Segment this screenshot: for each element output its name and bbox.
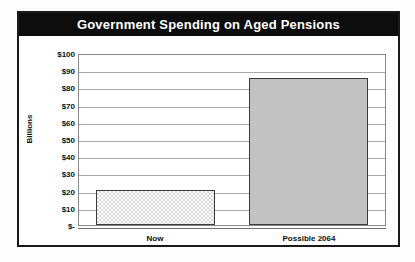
y-axis-tick-label: $70	[62, 101, 75, 110]
x-axis-label-possible-2064: Possible 2064	[232, 229, 386, 249]
chart-body: Billions $-$10$20$30$40$50$60$70$80$90$1…	[19, 36, 398, 245]
chart-title-banner: Government Spending on Aged Pensions	[19, 13, 398, 36]
y-axis-tick-label: $30	[62, 170, 75, 179]
y-axis-tick-label: $40	[62, 153, 75, 162]
y-axis-tick-labels: $-$10$20$30$40$50$60$70$80$90$100	[33, 54, 77, 226]
y-axis-tick-label: $20	[62, 187, 75, 196]
chart-frame: Government Spending on Aged Pensions Bil…	[17, 11, 400, 247]
y-axis-tick-label: $60	[62, 118, 75, 127]
y-axis-tick-label: $10	[62, 204, 75, 213]
y-axis-tick-label: $50	[62, 136, 75, 145]
bar-slot	[232, 55, 385, 225]
y-axis-tick-label: $80	[62, 84, 75, 93]
plot-area	[78, 54, 386, 226]
bar-series	[79, 55, 385, 225]
y-axis-tick-label: $90	[62, 67, 75, 76]
x-axis-label-now: Now	[78, 229, 232, 249]
y-axis-tick-label: $100	[57, 50, 75, 59]
bar-slot	[79, 55, 232, 225]
x-axis-category-labels: NowPossible 2064	[78, 228, 386, 249]
y-axis-tick-label: $-	[68, 222, 75, 231]
bar-now[interactable]	[96, 190, 215, 225]
page-background: Government Spending on Aged Pensions Bil…	[0, 0, 415, 262]
chart-title: Government Spending on Aged Pensions	[77, 17, 340, 32]
bar-possible-2064[interactable]	[249, 78, 368, 225]
